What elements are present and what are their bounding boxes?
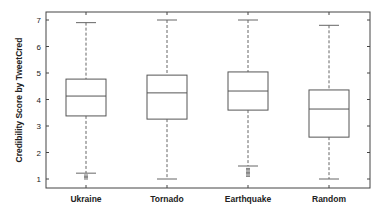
y-tick-label: 5 — [37, 69, 42, 78]
box-plot-chart: UkraineTornadoEarthquakeRandom 1234567 C… — [0, 0, 389, 207]
x-tick-label: Earthquake — [225, 194, 272, 204]
y-tick-label: 4 — [37, 96, 42, 105]
y-tick-label: 1 — [37, 175, 42, 184]
iqr-box — [309, 90, 349, 137]
x-tick-labels: UkraineTornadoEarthquakeRandom — [70, 12, 346, 204]
y-tick-label: 6 — [37, 43, 42, 52]
iqr-box — [66, 79, 106, 116]
x-tick-label: Random — [312, 194, 346, 204]
y-axis-label: Credibility Score by TweetCred — [14, 37, 24, 162]
y-tick-label: 2 — [37, 149, 42, 158]
box-random — [309, 25, 349, 179]
box-series — [66, 20, 349, 179]
box-ukraine — [66, 23, 106, 179]
iqr-box — [147, 75, 187, 119]
x-tick-label: Ukraine — [70, 194, 101, 204]
chart-canvas: UkraineTornadoEarthquakeRandom 1234567 C… — [0, 0, 389, 207]
x-tick-label: Tornado — [150, 194, 183, 204]
y-tick-label: 7 — [37, 16, 42, 25]
box-tornado — [147, 20, 187, 179]
y-tick-label: 3 — [37, 122, 42, 131]
box-earthquake — [228, 20, 268, 176]
